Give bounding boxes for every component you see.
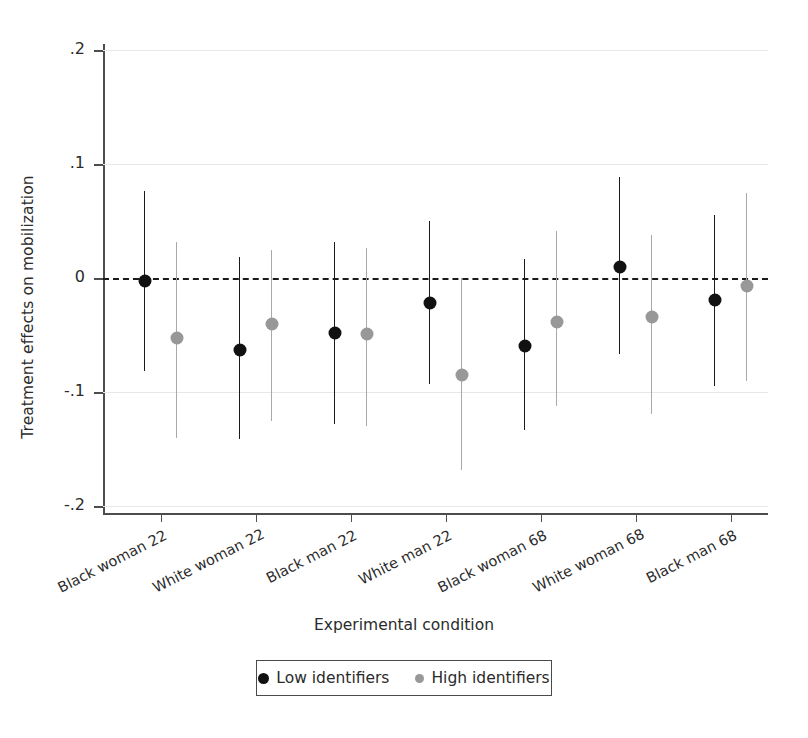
y-axis-tick-label: .2 (25, 39, 85, 58)
x-axis-tick (446, 513, 448, 522)
data-point-marker (423, 297, 436, 310)
circle-marker-icon (258, 673, 269, 684)
x-axis-title: Experimental condition (0, 616, 808, 634)
y-axis-tick-label: 0 (25, 267, 85, 286)
data-point-marker (328, 326, 341, 339)
legend: Low identifiers High identifiers (256, 660, 552, 696)
x-axis-tick (161, 513, 163, 522)
data-point-marker (708, 293, 721, 306)
data-point-marker (518, 340, 531, 353)
gridline (103, 506, 768, 507)
data-point-marker (170, 332, 183, 345)
data-point-marker (455, 368, 468, 381)
x-axis-line (103, 513, 768, 515)
data-point-marker (550, 316, 563, 329)
x-axis-tick (256, 513, 258, 522)
data-point-marker (233, 343, 246, 356)
data-point-marker (645, 310, 658, 323)
x-axis-tick (541, 513, 543, 522)
y-axis-tick-label: .1 (25, 153, 85, 172)
y-axis-tick (94, 278, 103, 280)
data-point-marker (740, 279, 753, 292)
chart-figure: Treatment effects on mobilization Experi… (0, 0, 808, 738)
gridline (103, 50, 768, 51)
gridline (103, 392, 768, 393)
y-axis-tick (94, 392, 103, 394)
y-axis-tick (94, 164, 103, 166)
zero-reference-line (103, 278, 768, 280)
confidence-interval-bar (651, 235, 653, 414)
circle-marker-icon (415, 674, 424, 683)
gridline (103, 164, 768, 165)
data-point-marker (138, 275, 151, 288)
legend-label: High identifiers (431, 669, 549, 687)
data-point-marker (265, 317, 278, 330)
y-axis-tick (94, 506, 103, 508)
data-point-marker (360, 327, 373, 340)
data-point-marker (613, 260, 626, 273)
y-axis-tick (94, 50, 103, 52)
confidence-interval-bar (271, 250, 273, 421)
x-axis-tick (636, 513, 638, 522)
y-axis-title: Treatment effects on mobilization (19, 142, 37, 472)
y-axis-tick-label: -.1 (25, 381, 85, 400)
x-axis-tick (351, 513, 353, 522)
legend-item-high-identifiers: High identifiers (415, 669, 549, 687)
legend-item-low-identifiers: Low identifiers (258, 669, 389, 687)
legend-label: Low identifiers (276, 669, 389, 687)
y-axis-tick-label: -.2 (25, 495, 85, 514)
x-axis-tick (731, 513, 733, 522)
